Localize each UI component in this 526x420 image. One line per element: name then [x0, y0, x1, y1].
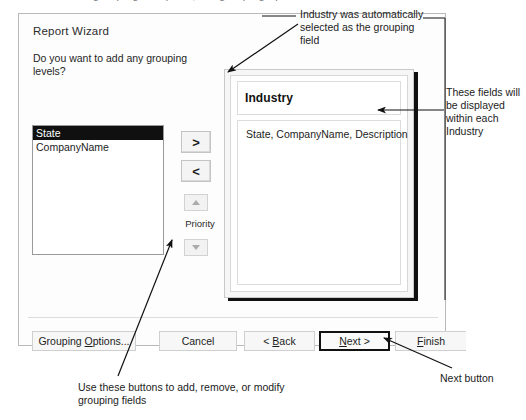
grouping-options-button[interactable]: Grouping Options... [32, 331, 136, 351]
report-wizard-dialog: Report Wizard Do you want to add any gro… [18, 13, 446, 346]
add-grouping-level-button[interactable]: > [181, 131, 211, 153]
report-preview-panel: Industry State, CompanyName, Description [224, 69, 414, 298]
cancel-button[interactable]: Cancel [159, 331, 237, 351]
cropped-text-above: about grouping in reports, the grouping … [0, 0, 526, 9]
preview-group-field-label: Industry [245, 91, 293, 105]
preview-group-header: Industry [237, 81, 401, 115]
preview-detail-fields-label: State, CompanyName, Description [246, 128, 408, 140]
footer-divider [28, 317, 438, 318]
preview-detail-section: State, CompanyName, Description [237, 120, 401, 285]
prompt-text: Do you want to add any grouping levels? [33, 52, 208, 78]
remove-grouping-level-button[interactable]: < [181, 160, 211, 182]
priority-down-button[interactable] [184, 239, 208, 256]
grouping-options-label: Grouping Options... [38, 335, 129, 347]
finish-button[interactable]: Finish [395, 331, 466, 351]
annotation-move-buttons: Use these buttons to add, remove, or mod… [78, 381, 328, 407]
priority-label: Priority [178, 218, 222, 229]
annotation-next-button: Next button [440, 372, 526, 385]
annotation-grouping-field: Industry was automatically selected as t… [300, 8, 428, 47]
priority-up-button[interactable] [184, 194, 208, 211]
dialog-title: Report Wizard [33, 25, 109, 37]
next-button[interactable]: Next > [319, 331, 390, 351]
annotation-detail-fields: These fields will be displayed within ea… [446, 86, 524, 138]
list-item-state[interactable]: State [33, 126, 163, 140]
finish-label: Finish [417, 335, 445, 347]
available-fields-listbox[interactable]: State CompanyName [32, 125, 164, 255]
list-item-companyname[interactable]: CompanyName [33, 140, 163, 154]
cropped-text-line: about grouping in reports, the grouping … [60, 0, 307, 1]
back-button[interactable]: < Back [244, 331, 315, 351]
preview-page: Industry State, CompanyName, Description [230, 75, 408, 292]
field-move-button-group: > < Priority [178, 131, 222, 259]
up-arrow-icon [192, 200, 200, 205]
back-label: < Back [263, 335, 295, 347]
down-arrow-icon [192, 245, 200, 250]
next-label: Next > [339, 335, 370, 347]
